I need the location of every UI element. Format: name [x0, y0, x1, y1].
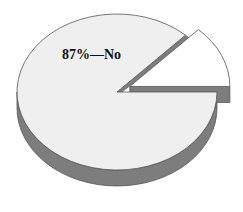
pie-chart: 87%—No	[0, 0, 243, 212]
slice-label-no: 87%—No	[62, 47, 121, 62]
